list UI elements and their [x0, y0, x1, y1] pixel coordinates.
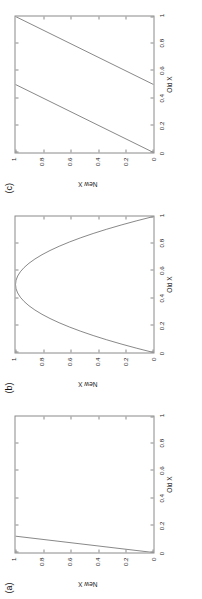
panel-a-xtick-top-1	[15, 524, 18, 525]
panel-b-xticklabel-5: 1	[158, 213, 164, 216]
panel-b-ytick-4	[43, 349, 44, 352]
panel-a-label: (a)	[4, 582, 13, 593]
panel-c-yticklabel-3: 0.6	[67, 157, 73, 177]
panel-b-xtick-5	[150, 216, 153, 217]
panel-c-ytick-5	[15, 149, 16, 152]
panel-a-ytick-0	[152, 549, 153, 552]
panel-a-xticklabel-4: 0.8	[158, 438, 164, 447]
panel-a-xaxis-title: Old X	[166, 415, 173, 553]
panel-b-xtick-4	[150, 242, 153, 243]
panel-c-plot-area	[14, 15, 154, 153]
panel-a-ytick-2	[98, 549, 99, 552]
panel-c-ytick-3	[70, 149, 71, 152]
panel-c-yticklabel-5: 1	[11, 157, 17, 177]
panel-b-ytick-2	[98, 349, 99, 352]
panel-c-xtick-1	[150, 124, 153, 125]
panel-a-xticklabel-3: 0.6	[158, 466, 164, 475]
panel-c-rotated-canvas: (c)	[0, 0, 202, 199]
panel-a-yticklabel-2: 0.4	[95, 557, 101, 577]
panel-a-ytick-4	[43, 549, 44, 552]
panel-a-xticklabel-1: 0.2	[158, 521, 164, 530]
panel-c-xaxis-title: Old X	[166, 15, 173, 153]
panel-a-xtick-5	[150, 416, 153, 417]
panel-b-ytick-right-3	[70, 216, 71, 219]
panel-a-xtick-top-3	[15, 469, 18, 470]
panel-b-ytick-0	[152, 349, 153, 352]
panel-b-ytick-right-2	[98, 216, 99, 219]
panel-c-ytick-2	[98, 149, 99, 152]
panel-c-ytick-right-4	[43, 16, 44, 19]
panel-b-xtick-top-2	[15, 297, 18, 298]
panel-a-xtick-1	[150, 524, 153, 525]
panel-b-xticklabel-4: 0.8	[158, 238, 164, 247]
panel-a-ytick-right-1	[125, 416, 126, 419]
panel-b-yticklabel-1: 0.2	[123, 357, 129, 377]
panel-b-rotated-canvas: (b)	[0, 200, 202, 399]
panel-c-yticklabel-1: 0.2	[123, 157, 129, 177]
panel-b-xticklabel-2: 0.4	[158, 294, 164, 303]
panel-a-ytick-5	[15, 549, 16, 552]
panel-c-xtick-5	[150, 16, 153, 17]
panel-c-ytick-right-2	[98, 16, 99, 19]
panel-b-label: (b)	[4, 382, 13, 393]
panel-c-xtick-top-2	[15, 97, 18, 98]
panel-c-ytick-1	[125, 149, 126, 152]
panel-c-xticklabel-0: 0	[158, 151, 164, 154]
panel-b-xaxis-title: Old X	[166, 215, 173, 353]
panel-c-curve	[15, 16, 153, 152]
panel-c-yaxis-title: New X	[57, 180, 117, 187]
panel-b-yaxis-title: New X	[57, 380, 117, 387]
panel-a-ytick-3	[70, 549, 71, 552]
panel-b-yticklabel-2: 0.4	[95, 357, 101, 377]
panel-b-yticklabel-5: 1	[11, 357, 17, 377]
panel-a-xticklabel-2: 0.4	[158, 494, 164, 503]
panel-c: (c)	[0, 0, 202, 199]
panel-c-xtick-top-4	[15, 42, 18, 43]
panel-c-label: (c)	[4, 183, 13, 194]
panel-a-ytick-right-4	[43, 416, 44, 419]
panel-b-ytick-1	[125, 349, 126, 352]
panel-b-ytick-5	[15, 349, 16, 352]
panel-c-xtick-2	[150, 97, 153, 98]
panel-a-ytick-right-3	[70, 416, 71, 419]
panel-c-ytick-right-3	[70, 16, 71, 19]
panel-c-xtick-3	[150, 69, 153, 70]
panel-b-xticklabel-0: 0	[158, 351, 164, 354]
panel-c-xtick-top-1	[15, 124, 18, 125]
panel-b-xtick-3	[150, 269, 153, 270]
panel-b-xtick-top-3	[15, 269, 18, 270]
panel-b-xtick-2	[150, 297, 153, 298]
panel-b-yticklabel-0: 0	[151, 357, 157, 377]
panel-c-xticklabel-2: 0.4	[158, 94, 164, 103]
panel-b-xtick-top-4	[15, 242, 18, 243]
panel-b-ytick-3	[70, 349, 71, 352]
panel-c-xtick-top-3	[15, 69, 18, 70]
panel-b-xticklabel-3: 0.6	[158, 266, 164, 275]
panel-a-xticklabel-5: 1	[158, 413, 164, 416]
panel-a-plot-area	[14, 415, 154, 553]
panel-b-yticklabel-3: 0.6	[67, 357, 73, 377]
panel-b-xtick-1	[150, 324, 153, 325]
panel-b-ytick-right-1	[125, 216, 126, 219]
panel-c-xticklabel-1: 0.2	[158, 121, 164, 130]
panel-a-yticklabel-0: 0	[151, 557, 157, 577]
panel-a-xtick-3	[150, 469, 153, 470]
panel-b-ytick-right-4	[43, 216, 44, 219]
panel-a-ytick-right-2	[98, 416, 99, 419]
panel-c-xticklabel-4: 0.8	[158, 38, 164, 47]
panel-a-xtick-top-2	[15, 497, 18, 498]
panel-b: (b)	[0, 200, 202, 399]
panel-b-xticklabel-1: 0.2	[158, 321, 164, 330]
panel-b-curve	[15, 216, 153, 352]
panel-a-ytick-1	[125, 549, 126, 552]
panel-c-yticklabel-4: 0.8	[39, 157, 45, 177]
panel-a-rotated-canvas: (a)	[0, 400, 202, 599]
panel-b-xtick-top-1	[15, 324, 18, 325]
panel-a-xtick-top-4	[15, 442, 18, 443]
panel-a-yticklabel-1: 0.2	[123, 557, 129, 577]
panel-c-ytick-0	[152, 149, 153, 152]
panel-c-ytick-right-1	[125, 16, 126, 19]
panel-a-xtick-2	[150, 497, 153, 498]
panel-a-yticklabel-4: 0.8	[39, 557, 45, 577]
panel-c-xticklabel-3: 0.6	[158, 66, 164, 75]
